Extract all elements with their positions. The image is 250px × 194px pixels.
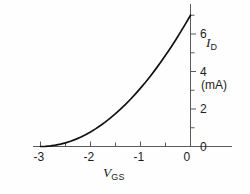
y-axis-title: ID bbox=[206, 36, 217, 50]
jfet-transfer-characteristic-figure: -3 -2 -1 0 0 2 4 6 VGS ID (mA) bbox=[0, 0, 250, 194]
plot-canvas bbox=[0, 0, 250, 194]
y-tick-label: 2 bbox=[200, 103, 207, 115]
x-tick-label: -1 bbox=[134, 151, 145, 163]
x-axis-title-symbol: V bbox=[103, 165, 111, 180]
x-tick-label: -3 bbox=[34, 151, 45, 163]
y-axis-title-subscript: D bbox=[211, 42, 218, 52]
y-tick-label: 4 bbox=[200, 66, 207, 78]
x-axis-title-subscript: GS bbox=[111, 172, 124, 182]
x-tick-label: -2 bbox=[84, 151, 95, 163]
y-axis-title-symbol: I bbox=[206, 35, 211, 50]
y-tick-label: 0 bbox=[200, 141, 207, 153]
x-axis-title: VGS bbox=[103, 166, 125, 180]
y-axis-ticks bbox=[191, 15, 197, 146]
y-axis-unit-label: (mA) bbox=[201, 79, 227, 91]
transfer-curve bbox=[41, 15, 191, 146]
x-tick-label: 0 bbox=[184, 151, 191, 163]
